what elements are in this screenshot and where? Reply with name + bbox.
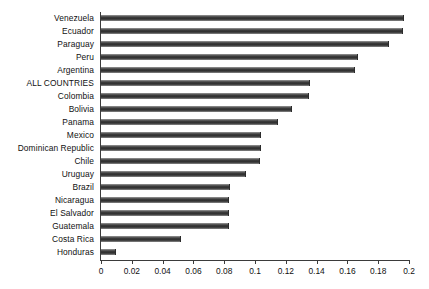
x-tick-label: 0.1 <box>249 266 261 276</box>
category-label: El Salvador <box>0 209 94 218</box>
category-label: Uruguay <box>0 170 94 179</box>
x-tick-mark <box>286 260 287 264</box>
x-tick-mark <box>378 260 379 264</box>
x-tick-label: 0 <box>99 266 104 276</box>
category-label: Colombia <box>0 92 94 101</box>
category-label: Nicaragua <box>0 196 94 205</box>
category-label: ALL COUNTRIES <box>0 79 94 88</box>
bar <box>101 93 309 99</box>
bar <box>101 171 246 177</box>
bar <box>101 210 229 216</box>
x-tick-mark <box>132 260 133 264</box>
bar <box>101 119 278 125</box>
bar <box>101 28 403 34</box>
bar <box>101 15 404 21</box>
category-axis-labels: VenezuelaEcuadorParaguayPeruArgentinaALL… <box>0 12 98 260</box>
category-label: Venezuela <box>0 14 94 23</box>
bar <box>101 145 261 151</box>
x-tick-label: 0.04 <box>154 266 170 276</box>
category-label: Ecuador <box>0 27 94 36</box>
category-label: Peru <box>0 53 94 62</box>
category-label: Panama <box>0 118 94 127</box>
x-tick-label: 0.12 <box>278 266 294 276</box>
bar <box>101 106 292 112</box>
bar <box>101 197 229 203</box>
bar <box>101 158 260 164</box>
category-label: Guatemala <box>0 222 94 231</box>
x-tick-mark <box>163 260 164 264</box>
x-tick-label: 0.08 <box>216 266 232 276</box>
x-tick-mark <box>101 260 102 264</box>
category-label: Paraguay <box>0 40 94 49</box>
category-label: Mexico <box>0 131 94 140</box>
x-tick-mark <box>193 260 194 264</box>
x-tick-label: 0.02 <box>124 266 140 276</box>
x-tick-mark <box>409 260 410 264</box>
category-label: Honduras <box>0 248 94 257</box>
x-tick-label: 0.18 <box>370 266 386 276</box>
x-tick-label: 0.16 <box>339 266 355 276</box>
x-tick-mark <box>224 260 225 264</box>
bar <box>101 132 261 138</box>
x-tick-mark <box>317 260 318 264</box>
bar <box>101 67 355 73</box>
plot-area <box>101 12 409 260</box>
x-tick-label: 0.06 <box>185 266 201 276</box>
x-tick-mark <box>255 260 256 264</box>
bar <box>101 236 181 242</box>
bar <box>101 223 229 229</box>
x-tick-label: 0.14 <box>308 266 324 276</box>
category-label: Brazil <box>0 183 94 192</box>
bar <box>101 80 310 86</box>
x-tick-mark <box>347 260 348 264</box>
category-label: Bolivia <box>0 105 94 114</box>
bar <box>101 41 389 47</box>
category-label: Costa Rica <box>0 235 94 244</box>
bar <box>101 249 116 255</box>
bar <box>101 54 358 60</box>
x-tick-label: 0.2 <box>403 266 415 276</box>
category-label: Chile <box>0 157 94 166</box>
category-label: Argentina <box>0 66 94 75</box>
category-label: Dominican Republic <box>0 144 94 153</box>
bar <box>101 184 230 190</box>
bar-chart: VenezuelaEcuadorParaguayPeruArgentinaALL… <box>0 0 429 289</box>
